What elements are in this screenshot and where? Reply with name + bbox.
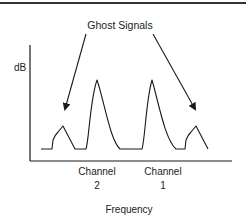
y-axis-label: dB — [14, 62, 27, 73]
channel-2-label: Channel 2 — [78, 166, 115, 191]
svg-text:Channel: Channel — [144, 166, 181, 177]
x-axis-label: Frequency — [105, 204, 152, 215]
ghost-signals-diagram: Ghost Signals dB Channel 2 Channel 1 Fre… — [0, 0, 246, 220]
arrow-left-ghost — [65, 34, 86, 109]
ghost-signals-label: Ghost Signals — [87, 19, 152, 31]
spectrum-trace — [41, 80, 208, 149]
channel-1-label: Channel 1 — [144, 166, 181, 191]
svg-text:2: 2 — [94, 180, 100, 191]
svg-text:1: 1 — [160, 180, 166, 191]
svg-text:Channel: Channel — [78, 166, 115, 177]
arrow-right-ghost — [153, 34, 195, 109]
